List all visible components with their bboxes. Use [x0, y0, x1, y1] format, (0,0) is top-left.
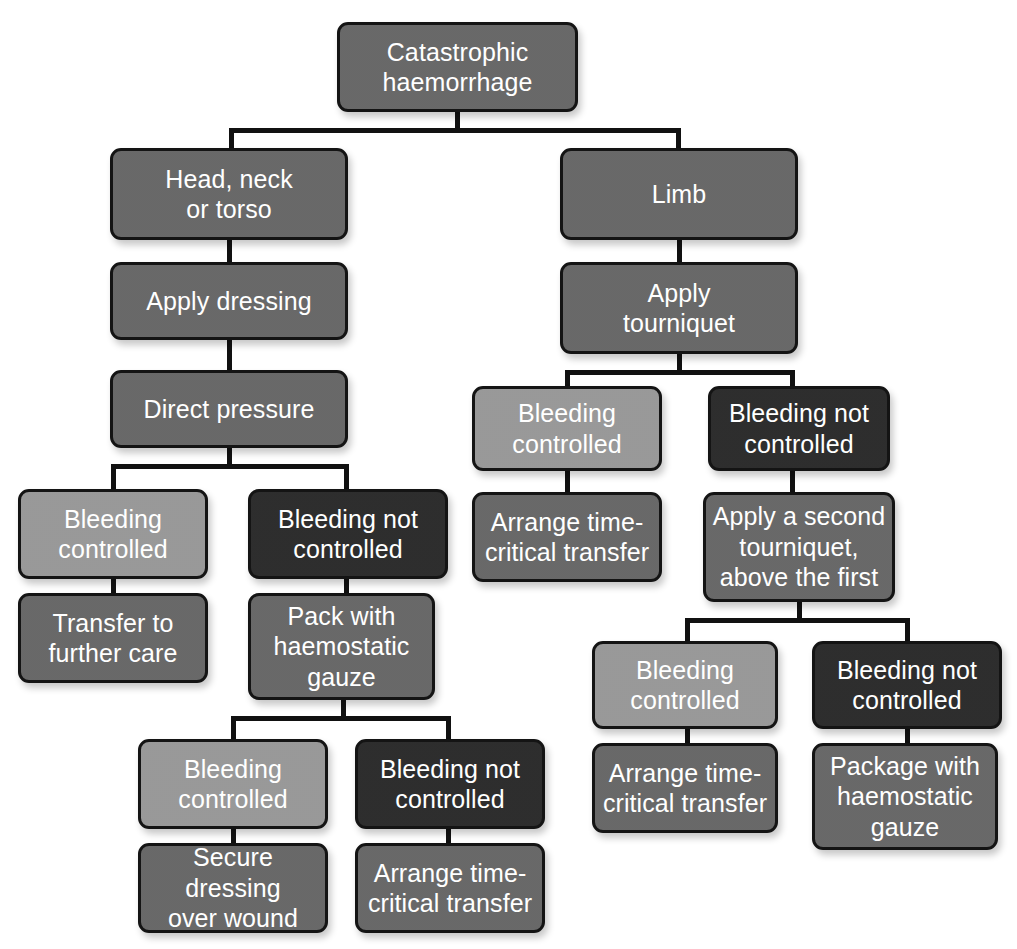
node-l2-arrange: Arrange time- critical transfer — [355, 843, 545, 933]
node-l-pack: Pack with haemostatic gauze — [248, 593, 435, 700]
node-label-pressure: Direct pressure — [144, 394, 315, 425]
connector-root-split — [229, 128, 681, 133]
node-label-l2-ctrl: Bleeding controlled — [178, 754, 287, 815]
node-label-l-ctrl: Bleeding controlled — [58, 504, 167, 565]
node-label-r-second: Apply a second tourniquet, above the fir… — [713, 501, 885, 593]
node-label-r-arrange: Arrange time- critical transfer — [485, 507, 649, 568]
node-label-r-ctrl: Bleeding controlled — [512, 398, 621, 459]
node-r-arrange: Arrange time- critical transfer — [472, 492, 662, 582]
node-r2-ctrl: Bleeding controlled — [592, 641, 778, 729]
node-label-hnt: Head, neck or torso — [165, 164, 292, 225]
node-pressure: Direct pressure — [110, 370, 348, 448]
node-label-r2-arrange: Arrange time- critical transfer — [603, 758, 767, 819]
node-label-limb: Limb — [652, 179, 707, 210]
connector-tourniquet-down — [677, 352, 682, 372]
flowchart-canvas: Catastrophic haemorrhageHead, neck or to… — [0, 0, 1017, 949]
connector-r2-split-right — [905, 618, 910, 643]
connector-to-limb — [676, 128, 681, 150]
node-limb: Limb — [560, 148, 798, 240]
connector-r-split — [565, 370, 795, 375]
node-r2-arrange: Arrange time- critical transfer — [592, 743, 778, 833]
connector-r2-split-left — [685, 618, 690, 643]
connector-r2-split — [685, 618, 910, 623]
connector-pack-down — [341, 698, 346, 718]
node-r2-notctrl: Bleeding not controlled — [812, 641, 1002, 729]
node-label-r2-notctrl: Bleeding not controlled — [837, 655, 977, 716]
connector-limb-tourniquet — [677, 238, 682, 264]
node-l2-notctrl: Bleeding not controlled — [355, 739, 545, 829]
node-label-root: Catastrophic haemorrhage — [383, 37, 533, 98]
node-label-dressing: Apply dressing — [146, 286, 311, 317]
node-label-l-notctrl: Bleeding not controlled — [278, 504, 418, 565]
connector-hnt-dressing — [227, 238, 232, 264]
node-l2-secure: Secure dressing over wound — [138, 843, 328, 933]
node-label-l-pack: Pack with haemostatic gauze — [274, 601, 410, 693]
connector-l2-split — [231, 716, 451, 721]
node-label-r-notctrl: Bleeding not controlled — [729, 398, 869, 459]
connector-l-split-left — [111, 464, 116, 491]
node-label-l-transfer: Transfer to further care — [48, 608, 177, 669]
node-root: Catastrophic haemorrhage — [337, 22, 578, 112]
node-dressing: Apply dressing — [110, 262, 348, 340]
node-label-r2-ctrl: Bleeding controlled — [630, 655, 739, 716]
connector-rnot-second — [790, 469, 795, 494]
connector-l2-split-right — [446, 716, 451, 741]
connector-l2-split-left — [231, 716, 236, 741]
node-label-l2-notctrl: Bleeding not controlled — [380, 754, 520, 815]
node-label-r2-package: Package with haemostatic gauze — [830, 751, 980, 843]
node-l2-ctrl: Bleeding controlled — [138, 739, 328, 829]
node-label-l2-arrange: Arrange time- critical transfer — [368, 858, 532, 919]
node-label-l2-secure: Secure dressing over wound — [147, 842, 319, 934]
node-r-second: Apply a second tourniquet, above the fir… — [703, 492, 895, 602]
node-r-notctrl: Bleeding not controlled — [708, 386, 890, 471]
connector-l-split — [111, 464, 349, 469]
node-hnt: Head, neck or torso — [110, 148, 348, 240]
connector-l-split-right — [344, 464, 349, 491]
connector-to-hnt — [229, 128, 234, 150]
connector-rctrl-arrange — [565, 469, 570, 494]
node-l-transfer: Transfer to further care — [18, 593, 208, 683]
node-l-ctrl: Bleeding controlled — [18, 489, 208, 579]
connector-dressing-pressure — [227, 338, 232, 372]
node-label-tourniquet: Apply tourniquet — [623, 278, 735, 339]
node-r-ctrl: Bleeding controlled — [472, 386, 662, 471]
node-tourniquet: Apply tourniquet — [560, 262, 798, 354]
node-l-notctrl: Bleeding not controlled — [248, 489, 448, 579]
node-r2-package: Package with haemostatic gauze — [812, 743, 998, 850]
